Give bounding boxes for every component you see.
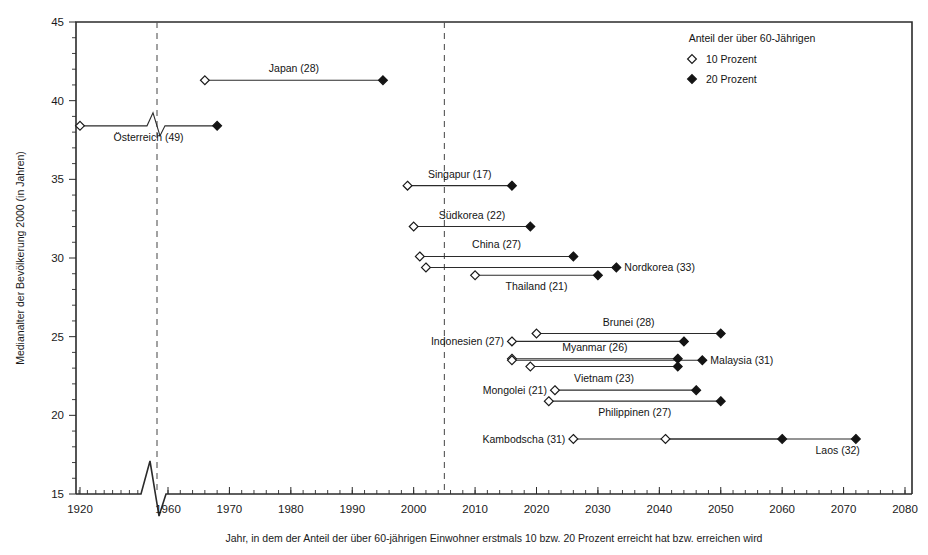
y-tick-label: 15 bbox=[51, 488, 64, 500]
x-tick-label: 2060 bbox=[769, 503, 795, 515]
y-tick-label: 35 bbox=[51, 173, 64, 185]
x-tick-label: 1960 bbox=[155, 503, 181, 515]
data-point-label: Philippinen (27) bbox=[598, 406, 671, 418]
x-tick-label: 2000 bbox=[401, 503, 427, 515]
legend-label: 20 Prozent bbox=[706, 73, 757, 85]
x-tick-label: 2040 bbox=[647, 503, 673, 515]
data-point-label: Kambodscha (31) bbox=[482, 433, 565, 445]
x-tick-label: 2080 bbox=[892, 503, 918, 515]
legend-label: 10 Prozent bbox=[706, 53, 757, 65]
y-tick-label: 25 bbox=[51, 331, 64, 343]
data-point-label: Mongolei (21) bbox=[483, 384, 547, 396]
y-tick-label: 20 bbox=[51, 409, 64, 421]
x-tick-label: 1970 bbox=[217, 503, 243, 515]
data-point-label: Malaysia (31) bbox=[710, 354, 773, 366]
data-point-label: Indonesien (27) bbox=[431, 335, 504, 347]
y-axis-title: Medianalter der Bevölkerung 2000 (in Jah… bbox=[14, 151, 26, 365]
x-tick-label: 1920 bbox=[67, 503, 93, 515]
data-point-label: Japan (28) bbox=[269, 62, 319, 74]
chart-background bbox=[0, 0, 928, 555]
data-point-label: Österreich (49) bbox=[114, 131, 184, 143]
y-tick-label: 30 bbox=[51, 252, 64, 264]
data-point-label: Brunei (28) bbox=[603, 316, 655, 328]
data-point-label: Thailand (21) bbox=[506, 280, 568, 292]
data-point-label: Laos (32) bbox=[816, 444, 860, 456]
x-axis-title: Jahr, in dem der Anteil der über 60-jähr… bbox=[226, 532, 763, 544]
x-tick-label: 2030 bbox=[585, 503, 611, 515]
y-tick-label: 40 bbox=[51, 95, 64, 107]
data-point-label: Myanmar (26) bbox=[562, 341, 627, 353]
population-median-age-scatter-chart: Japan (28)Österreich (49)Singapur (17)Sü… bbox=[0, 0, 928, 555]
x-tick-label: 2070 bbox=[831, 503, 857, 515]
data-point-label: Nordkorea (33) bbox=[624, 261, 695, 273]
y-tick-label: 45 bbox=[51, 16, 64, 28]
x-tick-label: 2050 bbox=[708, 503, 734, 515]
data-point-label: China (27) bbox=[472, 238, 521, 250]
data-point-label: Südkorea (22) bbox=[439, 209, 506, 221]
data-point-label: Singapur (17) bbox=[428, 168, 492, 180]
x-tick-label: 2020 bbox=[524, 503, 550, 515]
chart-canvas: Japan (28)Österreich (49)Singapur (17)Sü… bbox=[0, 0, 928, 555]
x-tick-label: 2010 bbox=[462, 503, 488, 515]
x-tick-label: 1990 bbox=[339, 503, 365, 515]
data-point-label: Vietnam (23) bbox=[574, 372, 634, 384]
x-tick-label: 1980 bbox=[278, 503, 304, 515]
legend-title: Anteil der über 60-Jährigen bbox=[689, 32, 816, 44]
